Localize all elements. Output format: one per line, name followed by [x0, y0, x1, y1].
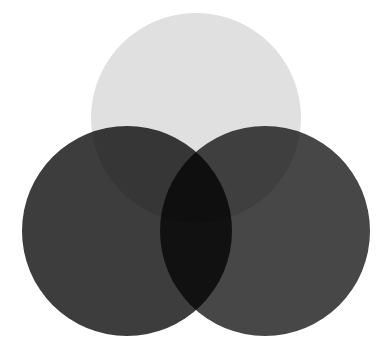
- venn-diagram-canvas: [0, 0, 392, 347]
- venn-circle-bottom-right: [160, 126, 370, 336]
- venn-diagram-svg: [0, 0, 392, 347]
